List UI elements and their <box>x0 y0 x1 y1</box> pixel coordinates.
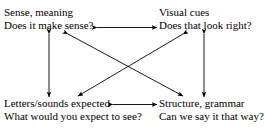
node-visual-question: Does that look right? <box>159 19 252 32</box>
connector-diagonal-visual-letters <box>78 34 183 96</box>
node-sense-meaning: Sense, meaning Does it make sense? <box>4 6 94 32</box>
node-visual-cues: Visual cues Does that look right? <box>159 6 252 32</box>
node-sense-question: Does it make sense? <box>4 19 94 32</box>
node-letters-sounds: Letters/sounds expected What would you e… <box>4 97 142 123</box>
connector-diagonal-sense-structure <box>68 34 183 96</box>
node-letters-heading: Letters/sounds expected <box>4 97 142 110</box>
node-structure-question: Can we say it that way? <box>159 110 264 123</box>
diagram-canvas: Sense, meaning Does it make sense? Visua… <box>0 0 265 132</box>
node-letters-question: What would you expect to see? <box>4 110 142 123</box>
node-sense-heading: Sense, meaning <box>4 6 94 19</box>
node-structure-heading: Structure, grammar <box>159 97 264 110</box>
node-visual-heading: Visual cues <box>159 6 252 19</box>
node-structure-grammar: Structure, grammar Can we say it that wa… <box>159 97 264 123</box>
